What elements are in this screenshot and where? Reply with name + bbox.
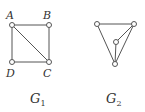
- edge-r-s: [115, 42, 116, 64]
- graph-g1: A B D C G1: [5, 9, 52, 108]
- node-label-b: B: [42, 9, 51, 22]
- diagram-canvas: A B D C G1 G2: [0, 0, 145, 112]
- node-a: [10, 23, 15, 28]
- node-d: [10, 60, 15, 65]
- node-p: [95, 22, 100, 27]
- node-q: [132, 22, 137, 27]
- graph-g2: G2: [95, 22, 137, 109]
- node-c: [47, 60, 52, 65]
- edge-p-s: [97, 24, 115, 64]
- node-label-a: A: [5, 9, 14, 22]
- graph-label-g1: G1: [30, 91, 45, 108]
- edge-q-r: [116, 24, 134, 42]
- node-r: [114, 40, 119, 45]
- edge-a-c: [12, 25, 49, 62]
- node-label-c: C: [43, 67, 52, 80]
- node-b: [47, 23, 52, 28]
- graph-label-g2: G2: [106, 91, 121, 108]
- node-label-d: D: [5, 67, 15, 80]
- node-s: [113, 62, 118, 67]
